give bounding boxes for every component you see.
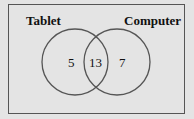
venn-diagram: Tablet Computer 5 13 7	[0, 0, 194, 119]
computer-label: Computer	[124, 13, 181, 28]
tablet-only-count: 5	[68, 55, 75, 70]
computer-only-count: 7	[119, 55, 126, 70]
intersection-count: 13	[89, 55, 102, 70]
tablet-label: Tablet	[26, 13, 62, 28]
